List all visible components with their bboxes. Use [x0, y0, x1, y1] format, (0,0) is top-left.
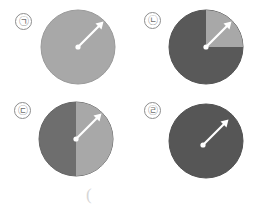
- panel-c-disc: [37, 100, 115, 178]
- panel-c: ㉢: [0, 92, 129, 188]
- bottom-paren-marker: (: [86, 185, 92, 205]
- panel-d: ㉣: [130, 92, 259, 188]
- panel-d-disc-svg: [167, 102, 245, 180]
- panel-b: ㉡: [130, 0, 259, 96]
- disc-highlight-right-half: [76, 102, 113, 176]
- arrow-origin-dot: [73, 136, 78, 141]
- arrow-origin-dot: [75, 44, 80, 49]
- arrow-origin-dot: [203, 44, 208, 49]
- panel-a-disc-svg: [39, 8, 117, 86]
- panel-a-disc: [39, 8, 117, 86]
- panel-d-disc: [167, 102, 245, 180]
- panel-b-label: ㉡: [144, 12, 161, 29]
- figure-root: ㉠ ㉡ ㉢: [0, 0, 259, 210]
- panel-a: ㉠: [0, 0, 129, 96]
- panel-d-label: ㉣: [144, 102, 161, 119]
- arrow-origin-dot: [200, 142, 205, 147]
- panel-b-disc-svg: [167, 8, 245, 86]
- panel-b-disc: [167, 8, 245, 86]
- panel-c-disc-svg: [37, 100, 115, 178]
- panel-a-label: ㉠: [15, 13, 32, 30]
- panel-c-label: ㉢: [14, 102, 31, 119]
